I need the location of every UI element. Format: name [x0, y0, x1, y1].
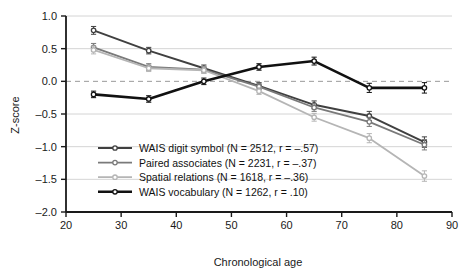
- legend-marker: [113, 190, 117, 194]
- y-tick-label: –1.0: [36, 141, 57, 153]
- x-tick-label: 20: [60, 219, 72, 231]
- chart-background: [0, 0, 470, 273]
- data-point: [312, 59, 316, 63]
- y-axis-title: Z-score: [9, 96, 21, 133]
- y-tick-label: 0.0: [42, 75, 57, 87]
- x-tick-label: 60: [280, 219, 292, 231]
- data-point: [312, 115, 316, 119]
- legend-marker: [113, 175, 117, 179]
- data-point: [91, 48, 95, 52]
- data-point: [147, 97, 151, 101]
- data-point: [91, 92, 95, 96]
- data-point: [367, 120, 371, 124]
- data-point: [422, 86, 426, 90]
- legend-marker: [113, 146, 117, 150]
- data-point: [422, 143, 426, 147]
- legend-label: Paired associates (N = 2231, r = –.37): [139, 157, 316, 169]
- data-point: [312, 105, 316, 109]
- data-point: [202, 68, 206, 72]
- legend-label: Spatial relations (N = 1618, r = –.36): [139, 171, 308, 183]
- x-tick-label: 90: [446, 219, 458, 231]
- data-point: [257, 89, 261, 93]
- data-point: [422, 174, 426, 178]
- data-point: [147, 48, 151, 52]
- data-point: [147, 66, 151, 70]
- x-tick-label: 50: [225, 219, 237, 231]
- chart-figure: 2030405060708090 1.00.50.0–0.5–1.0–1.5–2…: [0, 0, 470, 273]
- y-tick-label: –0.5: [36, 108, 57, 120]
- y-tick-label: 0.5: [42, 43, 57, 55]
- legend-label: WAIS vocabulary (N = 1262, r = .10): [139, 186, 308, 198]
- x-axis-title: Chronological age: [214, 256, 303, 268]
- data-point: [367, 86, 371, 90]
- line-chart: 2030405060708090 1.00.50.0–0.5–1.0–1.5–2…: [0, 0, 470, 273]
- x-tick-label: 40: [170, 219, 182, 231]
- y-tick-label: –2.0: [36, 206, 57, 218]
- x-tick-label: 30: [115, 219, 127, 231]
- data-point: [91, 28, 95, 32]
- x-tick-label: 80: [391, 219, 403, 231]
- data-point: [367, 136, 371, 140]
- y-tick-label: 1.0: [42, 10, 57, 22]
- x-tick-label: 70: [336, 219, 348, 231]
- legend-label: WAIS digit symbol (N = 2512, r = –.57): [139, 142, 318, 154]
- y-tick-label: –1.5: [36, 173, 57, 185]
- data-point: [257, 65, 261, 69]
- data-point: [202, 79, 206, 83]
- legend-marker: [113, 160, 117, 164]
